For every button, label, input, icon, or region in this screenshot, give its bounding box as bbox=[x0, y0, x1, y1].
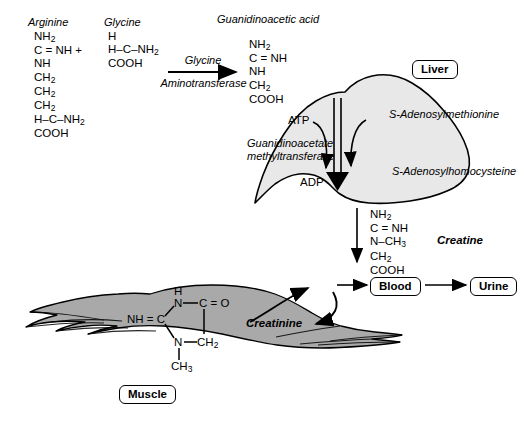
atp-label: ATP bbox=[288, 114, 310, 126]
enzyme-guanidinoacetate-methyltransferase: Guanidinoacetate methyltransferase bbox=[247, 137, 334, 163]
creatine-line-4: COOH bbox=[370, 264, 408, 277]
ring-ch3: CH3 bbox=[171, 360, 192, 372]
creatinine-label: Creatinine bbox=[246, 317, 302, 329]
arginine-line-7: COOH bbox=[34, 127, 85, 140]
arginine-line-3: CH2 bbox=[34, 71, 85, 85]
gaa-line-2: NH bbox=[249, 65, 287, 78]
glycine-structure: H H–C–NH2 COOH bbox=[108, 30, 159, 71]
s-adenosylhomocysteine-label: S-Adenosylhomocysteine bbox=[392, 165, 516, 177]
enzyme-line-1: Glycine bbox=[185, 54, 222, 66]
arrow-blood-to-creatinine bbox=[316, 292, 337, 324]
arrow-main-liver-transfer bbox=[334, 98, 341, 178]
gaa-line-4: COOH bbox=[249, 93, 287, 106]
arginine-line-1: C = NH + bbox=[34, 44, 85, 57]
ring-ch2: CH2 bbox=[197, 336, 218, 348]
s-adenosylmethionine-label: S-Adenosylmethionine bbox=[389, 108, 499, 120]
creatine-structure: NH2 C = NH N–CH3 CH2 COOH bbox=[370, 208, 408, 277]
guanidinoacetic-acid-title: Guanidinoacetic acid bbox=[217, 13, 319, 25]
creatinine-ring-bonds bbox=[165, 303, 204, 360]
creatine-line-3: CH2 bbox=[370, 250, 408, 264]
arginine-line-2: NH bbox=[34, 57, 85, 70]
ring-n-bottom: N bbox=[174, 336, 182, 348]
gamt-line-2: methyltransferase bbox=[247, 150, 334, 163]
ring-n-top: N bbox=[174, 297, 182, 309]
enzyme-glycine-aminotransferase-2: Aminotransferase bbox=[146, 77, 261, 90]
ring-c-carbonyl: C = O bbox=[199, 297, 229, 309]
gaa-line-0: NH2 bbox=[249, 38, 287, 52]
arginine-line-6: H–C–NH2 bbox=[34, 113, 85, 127]
ring-nh-left: NH = C bbox=[127, 313, 165, 325]
gamt-line-1: Guanidinoacetate bbox=[247, 137, 334, 150]
glycine-line-2: COOH bbox=[108, 57, 159, 70]
blood-label-box[interactable]: Blood bbox=[370, 277, 421, 296]
arginine-line-5: CH2 bbox=[34, 99, 85, 113]
arginine-structure: NH2 C = NH + NH CH2 CH2 CH2 H–C–NH2 COOH bbox=[34, 30, 85, 141]
muscle-label-box[interactable]: Muscle bbox=[119, 385, 176, 404]
adp-label: ADP bbox=[300, 176, 324, 188]
guanidinoacetic-acid-structure: NH2 C = NH NH CH2 COOH bbox=[249, 38, 287, 106]
creatine-label: Creatine bbox=[437, 234, 483, 246]
arrowhead-main-liver bbox=[326, 172, 349, 191]
urine-label-box[interactable]: Urine bbox=[470, 277, 517, 296]
diagram-canvas: Arginine NH2 C = NH + NH CH2 CH2 CH2 H–C… bbox=[0, 0, 524, 422]
gaa-line-3: CH2 bbox=[249, 79, 287, 93]
creatine-line-0: NH2 bbox=[370, 208, 408, 222]
glycine-title: Glycine bbox=[104, 16, 141, 28]
arginine-line-0: NH2 bbox=[34, 30, 85, 44]
creatine-line-2: N–CH3 bbox=[370, 235, 408, 249]
glycine-line-1: H–C–NH2 bbox=[108, 43, 159, 57]
creatine-line-1: C = NH bbox=[370, 222, 408, 235]
arginine-line-4: CH2 bbox=[34, 85, 85, 99]
ring-h-top: H bbox=[174, 285, 182, 297]
liver-label-box[interactable]: Liver bbox=[412, 60, 458, 79]
gaa-line-1: C = NH bbox=[249, 52, 287, 65]
arrow-sam-to-sah bbox=[351, 120, 366, 166]
enzyme-glycine-aminotransferase: Glycine bbox=[153, 54, 253, 67]
enzyme-line-2: Aminotransferase bbox=[160, 77, 246, 89]
arginine-title: Arginine bbox=[28, 16, 68, 28]
glycine-line-0: H bbox=[108, 30, 159, 43]
